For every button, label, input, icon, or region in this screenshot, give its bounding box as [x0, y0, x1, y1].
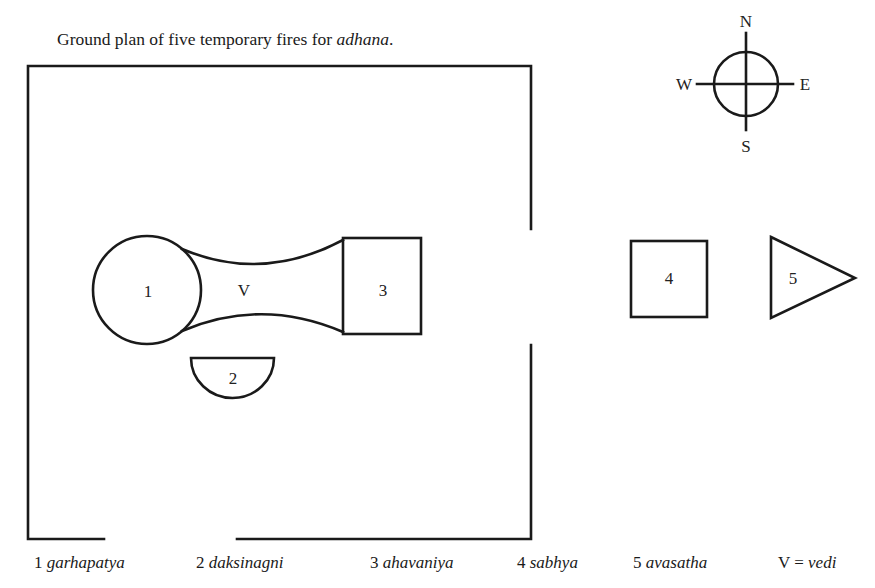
compass-west-label: W: [676, 75, 693, 94]
legend-name: daksinagni: [209, 553, 284, 572]
vedi-bottom-edge: [182, 314, 343, 332]
legend-num: 4: [517, 553, 526, 572]
legend-num: V =: [778, 553, 804, 572]
compass-east-label: E: [800, 75, 810, 94]
vedi-top-edge: [182, 240, 343, 264]
legend-item-2: 2 daksinagni: [196, 553, 283, 573]
enclosure-wall-right-bottom: [237, 345, 531, 539]
fire-3-label: 3: [379, 281, 388, 300]
legend-name: avasatha: [646, 553, 707, 572]
legend-item-5: 5 avasatha: [633, 553, 707, 573]
legend-name: garhapatya: [47, 553, 125, 572]
enclosure: [28, 66, 531, 539]
legend-num: 3: [370, 553, 379, 572]
fire-5-label: 5: [789, 269, 798, 288]
legend-item-vedi: V = vedi: [778, 553, 836, 573]
legend-num: 1: [34, 553, 43, 572]
ground-plan-diagram: N S W E 1 V 3 2 4 5: [0, 0, 875, 588]
legend-name: ahavaniya: [383, 553, 454, 572]
fire-4-label: 4: [665, 269, 674, 288]
enclosure-wall-left-top: [28, 66, 531, 539]
legend-name: sabhya: [530, 553, 578, 572]
vedi-label: V: [238, 281, 251, 300]
legend-item-3: 3 ahavaniya: [370, 553, 454, 573]
compass-north-label: N: [740, 12, 752, 31]
legend-num: 5: [633, 553, 642, 572]
fire-2-label: 2: [229, 369, 238, 388]
legend-item-4: 4 sabhya: [517, 553, 578, 573]
legend-num: 2: [196, 553, 205, 572]
fire-1-label: 1: [144, 282, 153, 301]
compass-rose-icon: [697, 33, 793, 130]
fire-5-triangle: [771, 237, 855, 318]
compass-south-label: S: [741, 137, 750, 156]
legend-item-1: 1 garhapatya: [34, 553, 125, 573]
legend-name: vedi: [808, 553, 836, 572]
